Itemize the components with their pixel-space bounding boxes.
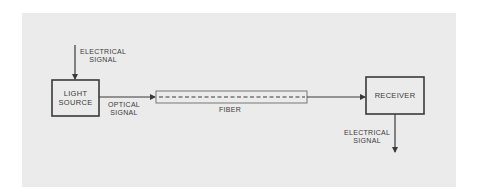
optical-signal-line1: OPTICAL <box>108 101 140 109</box>
fiber-label: FIBER <box>219 106 241 114</box>
output-signal-line1: ELECTRICAL <box>344 129 390 137</box>
receiver-label: RECEIVER <box>366 91 424 100</box>
optical-signal-label: OPTICAL SIGNAL <box>108 101 140 117</box>
input-signal-line2: SIGNAL <box>80 56 126 64</box>
output-signal-label: ELECTRICAL SIGNAL <box>344 129 390 145</box>
optical-signal-line2: SIGNAL <box>108 109 140 117</box>
receiver-label-text: RECEIVER <box>366 91 424 100</box>
light-source-line1: LIGHT <box>52 89 99 98</box>
output-signal-line2: SIGNAL <box>344 137 390 145</box>
fiber-label-text: FIBER <box>219 106 241 114</box>
input-signal-label: ELECTRICAL SIGNAL <box>80 48 126 64</box>
light-source-line2: SOURCE <box>52 98 99 107</box>
light-source-label: LIGHT SOURCE <box>52 89 99 107</box>
input-signal-line1: ELECTRICAL <box>80 48 126 56</box>
